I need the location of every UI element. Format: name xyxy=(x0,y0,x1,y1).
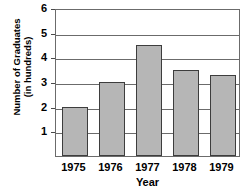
bar xyxy=(210,75,236,156)
x-tick-label: 1976 xyxy=(93,161,129,173)
x-axis-title: Year xyxy=(55,176,240,188)
plot-area xyxy=(55,9,240,157)
y-tick-label: 6 xyxy=(33,2,47,14)
bar xyxy=(136,45,162,156)
bar xyxy=(62,107,88,156)
y-tick-label: 3 xyxy=(33,76,47,88)
x-tick-label: 1975 xyxy=(56,161,92,173)
bar-chart-figure: Number of Graduates (in hundreds) 123456… xyxy=(0,0,251,194)
x-tick-label: 1977 xyxy=(130,161,166,173)
y-tick-label: 2 xyxy=(33,101,47,113)
y-tick-label: 1 xyxy=(33,125,47,137)
bar xyxy=(99,82,125,156)
y-axis-title-line-1: Number of Graduates xyxy=(11,0,22,137)
gridline xyxy=(56,35,239,36)
y-axis-title: Number of Graduates (in hundreds) xyxy=(11,0,33,137)
y-tick-label: 4 xyxy=(33,51,47,63)
x-tick-label: 1979 xyxy=(204,161,240,173)
bar xyxy=(173,70,199,156)
x-tick-label: 1978 xyxy=(167,161,203,173)
y-tick-label: 5 xyxy=(33,27,47,39)
y-axis-title-line-2: (in hundreds) xyxy=(22,0,33,137)
